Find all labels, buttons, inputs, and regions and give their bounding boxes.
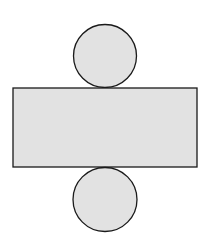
cylinder-net-diagram <box>0 0 209 246</box>
top-circle-base <box>74 25 137 88</box>
bottom-circle-base <box>73 168 137 232</box>
lateral-surface-rectangle <box>13 88 197 167</box>
